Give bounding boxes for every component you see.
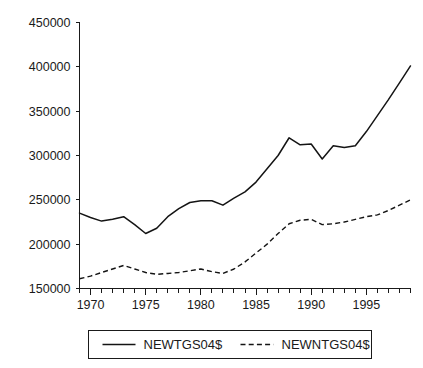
x-tick-label: 1975 bbox=[132, 298, 160, 312]
x-tick-label: 1985 bbox=[242, 298, 270, 312]
x-axis: 197019751980198519901995 bbox=[77, 289, 411, 312]
chart-legend: NEWTGS04$NEWNTGS04$ bbox=[89, 331, 372, 359]
x-tick-label: 1995 bbox=[352, 298, 380, 312]
y-tick-label: 450000 bbox=[29, 16, 71, 30]
legend-label-2: NEWNTGS04$ bbox=[282, 337, 371, 352]
x-tick-label: 1970 bbox=[77, 298, 105, 312]
legend-label-1: NEWTGS04$ bbox=[144, 337, 224, 352]
y-tick-label: 250000 bbox=[29, 193, 71, 207]
series-line-2 bbox=[80, 200, 411, 279]
y-tick-label: 200000 bbox=[29, 238, 71, 252]
y-axis: 1500002000002500003000003500004000004500… bbox=[29, 16, 80, 296]
y-tick-label: 150000 bbox=[29, 282, 71, 296]
y-tick-label: 350000 bbox=[29, 105, 71, 119]
plot-series-group bbox=[80, 66, 411, 279]
x-tick-label: 1980 bbox=[187, 298, 215, 312]
series-line-1 bbox=[80, 66, 411, 234]
y-tick-label: 400000 bbox=[29, 60, 71, 74]
x-tick-label: 1990 bbox=[297, 298, 325, 312]
line-chart: 1500002000002500003000003500004000004500… bbox=[0, 0, 423, 368]
chart-container: 1500002000002500003000003500004000004500… bbox=[0, 0, 423, 368]
y-tick-label: 300000 bbox=[29, 149, 71, 163]
